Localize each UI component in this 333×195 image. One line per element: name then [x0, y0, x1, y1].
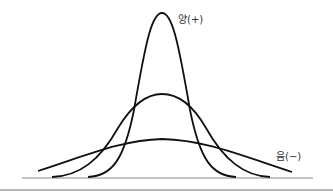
leptokurtic-curve: [88, 13, 236, 177]
platykurtic-curve: [38, 139, 292, 172]
kurtosis-diagram: 양(+) 음(−): [0, 0, 333, 195]
diagram-canvas: [0, 0, 333, 195]
positive-label: 양(+): [178, 11, 203, 26]
negative-label: 음(−): [276, 148, 301, 163]
mesokurtic-curve: [52, 94, 270, 177]
